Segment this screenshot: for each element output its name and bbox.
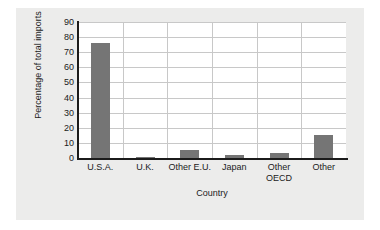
gridline-vertical: [257, 22, 258, 158]
x-tick-label: Other OECD: [266, 162, 292, 184]
x-tick-label: Japan: [222, 162, 247, 173]
y-axis-title: Percentage of total imports: [33, 0, 43, 135]
y-tick-label: 70: [48, 47, 74, 57]
plot-area: [78, 22, 346, 158]
figure-panel: Percentage of total imports 010203040506…: [16, 8, 364, 220]
y-tick-label: 40: [48, 93, 74, 103]
x-axis-line: [77, 158, 348, 160]
y-tick-label: 30: [48, 108, 74, 118]
x-tick-label: U.K.: [136, 162, 154, 173]
x-tick-label: Other: [312, 162, 335, 173]
gridline-vertical: [167, 22, 168, 158]
bar: [314, 135, 333, 158]
y-tick-label: 60: [48, 62, 74, 72]
y-tick-label: 10: [48, 138, 74, 148]
y-tick-label: 90: [48, 17, 74, 27]
y-tick-label: 80: [48, 32, 74, 42]
gridline-vertical: [212, 22, 213, 158]
x-axis-title: Country: [78, 188, 346, 198]
bar: [91, 43, 110, 158]
y-tick-label: 50: [48, 77, 74, 87]
gridline-vertical: [123, 22, 124, 158]
y-tick-label: 20: [48, 123, 74, 133]
bar: [180, 150, 199, 158]
x-tick-label: U.S.A.: [87, 162, 113, 173]
gridline-vertical: [301, 22, 302, 158]
y-axis-tick-labels: 0102030405060708090: [44, 22, 74, 158]
y-tick-label: 0: [48, 153, 74, 163]
x-tick-label: Other E.U.: [168, 162, 211, 173]
y-axis-line: [77, 21, 79, 159]
